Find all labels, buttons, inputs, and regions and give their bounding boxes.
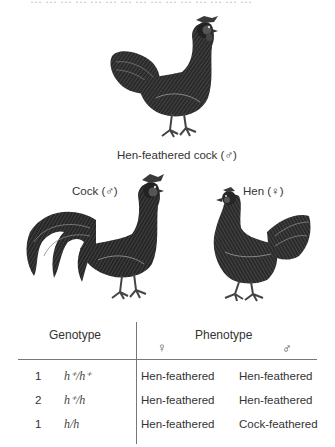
cock-caption: Cock (♂)	[72, 185, 118, 197]
male-phenotype-cell: Cock-feathered	[239, 418, 318, 430]
hen-illustration	[205, 182, 313, 304]
ratio-cell: 1	[35, 370, 41, 382]
ratio-cell: 1	[35, 418, 41, 430]
ratio-cell: 2	[35, 394, 41, 406]
clipped-text: … … … … … … … … … … … … … … …	[30, 0, 252, 6]
clipped-text-line: … … … … … … … … … … … … … … …	[0, 0, 335, 6]
male-phenotype-cell: Hen-feathered	[239, 370, 313, 382]
genotype-cell: h/h	[64, 417, 79, 432]
hen-feathered-cock-caption: Hen-feathered cock (♂)	[117, 149, 237, 161]
table-vertical-divider	[136, 322, 137, 444]
female-phenotype-cell: Hen-feathered	[141, 418, 215, 430]
table-horizontal-divider	[18, 359, 317, 360]
male-phenotype-cell: Hen-feathered	[239, 394, 313, 406]
genotype-cell: h⁺/h	[64, 393, 85, 408]
male-symbol-icon: ♂	[282, 341, 292, 356]
genotype-header: Genotype	[49, 328, 101, 342]
phenotype-header: Phenotype	[195, 328, 252, 342]
hen-caption: Hen (♀)	[243, 185, 284, 197]
genotype-cell: h⁺/h⁺	[64, 369, 91, 384]
hen-feathered-cock-illustration	[108, 14, 233, 142]
female-symbol-icon: ♀	[157, 340, 167, 355]
female-phenotype-cell: Hen-feathered	[141, 394, 215, 406]
female-phenotype-cell: Hen-feathered	[141, 370, 215, 382]
